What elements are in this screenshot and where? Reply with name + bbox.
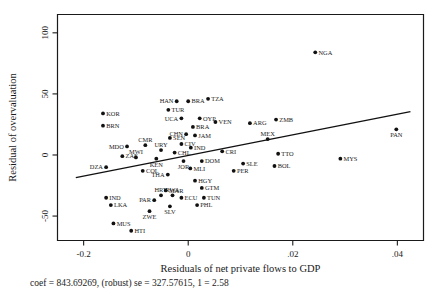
y-tick-label: -50 xyxy=(41,210,51,222)
data-point xyxy=(129,229,133,233)
data-point-label: TUN xyxy=(207,194,221,201)
data-point-label: OYP xyxy=(203,115,216,122)
data-point xyxy=(120,154,124,158)
data-point-label: DOM xyxy=(205,157,220,164)
y-tick-label: 0 xyxy=(41,152,51,157)
data-point-label: CMR xyxy=(138,136,153,143)
data-point xyxy=(241,162,245,166)
data-point xyxy=(152,198,156,202)
data-point xyxy=(171,193,175,197)
data-point xyxy=(214,120,218,124)
data-point xyxy=(134,156,138,160)
data-point-label: SLE xyxy=(246,160,257,167)
data-point-label: BRA xyxy=(196,123,210,130)
data-point-label: MDO xyxy=(109,143,124,150)
data-point xyxy=(193,134,197,138)
data-point-label: IND xyxy=(194,144,206,151)
data-point xyxy=(248,121,252,125)
data-point xyxy=(166,173,170,177)
data-point xyxy=(193,179,197,183)
data-point xyxy=(166,108,170,112)
data-point-label: HRY xyxy=(154,186,168,193)
y-tick-label: 100 xyxy=(41,26,51,40)
x-tick-label: -0.2 xyxy=(77,249,91,259)
data-point-label: BRA xyxy=(191,97,205,104)
data-point-label: ARG xyxy=(253,119,267,126)
data-point-label: HAN xyxy=(160,97,174,104)
data-point-label: IND xyxy=(109,194,121,201)
data-point-label: JAM xyxy=(198,132,211,139)
data-point xyxy=(159,148,163,152)
data-point xyxy=(109,203,113,207)
data-point xyxy=(173,151,177,155)
data-point xyxy=(313,50,317,54)
data-point-label: ECU xyxy=(185,194,198,201)
data-point-label: ZMB xyxy=(279,116,293,123)
data-point-label: PHL xyxy=(200,201,212,208)
data-point xyxy=(175,99,179,103)
data-point-label: VEN xyxy=(219,118,233,125)
data-point-label: MWI xyxy=(129,148,143,155)
data-point xyxy=(220,149,224,153)
data-point xyxy=(180,116,184,120)
data-point-label: PAN xyxy=(390,131,403,138)
data-point-label: CRI xyxy=(225,148,236,155)
data-point-label: HTI xyxy=(134,227,145,234)
data-point-label: MLI xyxy=(194,165,206,172)
x-tick-label: 0 xyxy=(186,249,191,259)
data-point-label: RWA xyxy=(166,186,180,193)
data-point-label: UCA xyxy=(165,115,179,122)
data-point xyxy=(266,137,270,141)
data-point xyxy=(168,136,172,140)
data-point-label: URY xyxy=(154,141,168,148)
data-point-label: MEX xyxy=(261,130,276,137)
x-axis-title: Residuals of net private flows to GDP xyxy=(161,263,321,274)
data-point xyxy=(141,169,145,173)
data-point-label: TTO xyxy=(281,150,294,157)
data-point xyxy=(143,143,147,147)
data-point-label: KOR xyxy=(106,110,120,117)
data-point-label: PAR xyxy=(139,196,152,203)
data-point xyxy=(273,164,277,168)
data-point-label: SLV xyxy=(164,208,176,215)
data-point-label: DZA xyxy=(90,163,104,170)
data-point xyxy=(186,99,190,103)
data-point-label: GTM xyxy=(205,184,220,191)
plot-canvas: -50050100-0.20.02.04Residuals of net pri… xyxy=(0,0,431,301)
data-point-label: HGY xyxy=(198,177,212,184)
data-point xyxy=(200,159,204,163)
data-point-label: TZA xyxy=(211,95,224,102)
data-point-label: ZWE xyxy=(143,213,157,220)
x-tick-label: .04 xyxy=(392,249,404,259)
data-point xyxy=(101,124,105,128)
scatter-plot-figure: -50050100-0.20.02.04Residuals of net pri… xyxy=(0,0,431,301)
data-point-label: PER xyxy=(237,167,249,174)
data-point xyxy=(206,97,210,101)
data-point xyxy=(200,186,204,190)
x-tick-label: .02 xyxy=(287,249,298,259)
data-point xyxy=(180,196,184,200)
data-point xyxy=(276,152,280,156)
data-point-label: BOL xyxy=(278,162,291,169)
data-point xyxy=(195,203,199,207)
data-point-label: TUR xyxy=(172,106,186,113)
data-point-label: JOR xyxy=(178,163,190,170)
data-point-label: NGA xyxy=(318,49,332,56)
data-point xyxy=(338,157,342,161)
data-point xyxy=(159,193,163,197)
data-point-label: CHL xyxy=(178,149,191,156)
data-point xyxy=(112,221,116,225)
data-point xyxy=(202,196,206,200)
data-point xyxy=(104,165,108,169)
data-point xyxy=(274,118,278,122)
data-point xyxy=(198,116,202,120)
data-point-label: THA xyxy=(151,171,165,178)
data-point-label: BRN xyxy=(106,122,120,129)
regression-caption: coef = 843.69269, (robust) se = 327.5761… xyxy=(30,278,229,289)
data-point-label: MUS xyxy=(117,220,131,227)
data-point xyxy=(191,125,195,129)
data-point xyxy=(232,169,236,173)
data-point-label: LKA xyxy=(114,201,128,208)
data-point xyxy=(101,112,105,116)
y-axis-title: Residual of overvaluation xyxy=(7,73,18,182)
